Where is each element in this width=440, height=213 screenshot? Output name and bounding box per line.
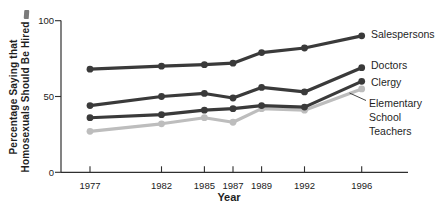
data-point-elementary-school-teachers — [158, 120, 165, 127]
data-point-clergy — [87, 114, 94, 121]
data-point-clergy — [201, 107, 208, 114]
x-axis-tick-label: 1982 — [151, 180, 172, 191]
y-axis-title-line1: Percentage Saying that — [8, 17, 20, 177]
x-axis-tick-label: 1987 — [222, 180, 243, 191]
data-point-doctors — [158, 93, 165, 100]
data-point-salespersons — [258, 49, 265, 56]
data-point-salespersons — [158, 63, 165, 70]
series-line-salespersons — [90, 36, 362, 69]
y-axis-title-line2: Homosexuals Should Be Hired — [20, 17, 32, 177]
x-axis-title: Year — [206, 191, 252, 203]
data-point-salespersons — [201, 61, 208, 68]
data-point-doctors — [258, 84, 265, 91]
data-point-salespersons — [358, 32, 365, 39]
series-label-salespersons: Salespersons — [371, 27, 435, 41]
data-point-doctors — [87, 102, 94, 109]
data-point-clergy — [358, 78, 365, 85]
x-axis-tick-label: 1989 — [251, 180, 272, 191]
x-axis-tick-label: 1996 — [351, 180, 372, 191]
y-axis-tick-label: 50 — [43, 91, 54, 102]
data-point-doctors — [201, 90, 208, 97]
figure: 0501001977198219851987198919921996 Perce… — [0, 0, 440, 213]
data-point-clergy — [230, 105, 237, 112]
data-point-elementary-school-teachers — [230, 119, 237, 126]
x-axis-tick-label: 1992 — [294, 180, 315, 191]
y-axis-tick-label: 0 — [49, 167, 54, 178]
y-axis-title: Percentage Saying that Homosexuals Shoul… — [8, 17, 34, 177]
data-point-clergy — [301, 104, 308, 111]
series-label-doctors: Doctors — [371, 58, 407, 72]
data-point-elementary-school-teachers — [87, 128, 94, 135]
data-point-clergy — [258, 102, 265, 109]
data-point-elementary-school-teachers — [358, 86, 365, 93]
data-point-doctors — [358, 64, 365, 71]
data-point-elementary-school-teachers — [201, 114, 208, 121]
data-point-salespersons — [230, 60, 237, 67]
data-point-salespersons — [87, 66, 94, 73]
x-axis-tick-label: 1985 — [194, 180, 215, 191]
series-label-clergy: Clergy — [371, 75, 401, 89]
data-point-doctors — [301, 89, 308, 96]
data-point-clergy — [158, 111, 165, 118]
teachers-label-leader-line — [350, 93, 367, 101]
x-axis-tick-label: 1977 — [79, 180, 100, 191]
data-point-doctors — [230, 95, 237, 102]
y-axis-tick-label: 100 — [38, 15, 54, 26]
series-label-elementary-school-teachers: Elementary School Teachers — [369, 96, 433, 138]
data-point-salespersons — [301, 45, 308, 52]
